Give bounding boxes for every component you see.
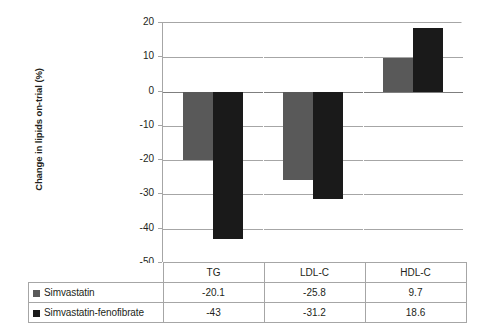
plot-area bbox=[162, 22, 462, 262]
data-table: TG LDL-C HDL-C Simvastatin -20.1 -25.8 9… bbox=[28, 262, 467, 323]
bar-tg-series-1 bbox=[213, 92, 243, 239]
legend-label: Simvastatin bbox=[44, 287, 95, 298]
table-row: Simvastatin -20.1 -25.8 9.7 bbox=[29, 283, 467, 303]
table-column-header-0: TG bbox=[163, 263, 264, 283]
legend-swatch-icon bbox=[33, 310, 40, 317]
bar-ldl-c-series-1 bbox=[313, 92, 343, 199]
table-cell: -31.2 bbox=[264, 303, 365, 323]
category-separator bbox=[263, 23, 264, 263]
bar-hdl-c-series-1 bbox=[413, 28, 443, 92]
legend-label: Simvastatin-fenofibrate bbox=[44, 307, 144, 318]
table-header-row: TG LDL-C HDL-C bbox=[29, 263, 467, 283]
legend-item-simvastatin: Simvastatin bbox=[29, 283, 164, 303]
gridline bbox=[163, 229, 463, 230]
table-corner-cell bbox=[29, 263, 164, 283]
bar-hdl-c-series-0 bbox=[383, 58, 413, 91]
table-cell: 9.7 bbox=[365, 283, 466, 303]
table-cell: -20.1 bbox=[163, 283, 264, 303]
table-cell: -43 bbox=[163, 303, 264, 323]
chart-figure: Change in lipids on-trial (%) 20100-10-2… bbox=[0, 0, 484, 335]
y-tick-label: -30 bbox=[124, 188, 154, 198]
y-tick-label: -40 bbox=[124, 223, 154, 233]
table-cell: -25.8 bbox=[264, 283, 365, 303]
y-tick-label: -20 bbox=[124, 154, 154, 164]
table-column-header-2: HDL-C bbox=[365, 263, 466, 283]
table-cell: 18.6 bbox=[365, 303, 466, 323]
y-tick-label: -10 bbox=[124, 120, 154, 130]
y-tick-label: 0 bbox=[124, 86, 154, 96]
y-tick-label: 20 bbox=[124, 17, 154, 27]
bar-ldl-c-series-0 bbox=[283, 92, 313, 180]
legend-item-simvastatin-fenofibrate: Simvastatin-fenofibrate bbox=[29, 303, 164, 323]
bar-tg-series-0 bbox=[183, 92, 213, 161]
table-row: Simvastatin-fenofibrate -43 -31.2 18.6 bbox=[29, 303, 467, 323]
legend-swatch-icon bbox=[33, 290, 40, 297]
category-separator bbox=[363, 23, 364, 263]
y-tick-label: 10 bbox=[124, 51, 154, 61]
table-column-header-1: LDL-C bbox=[264, 263, 365, 283]
